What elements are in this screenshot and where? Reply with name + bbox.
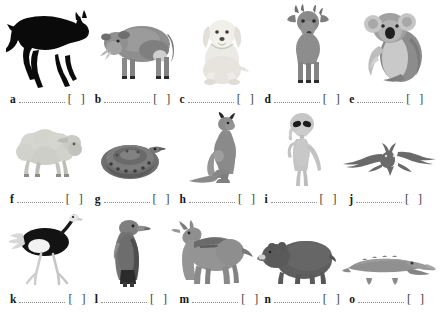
animal-illustration-row [0, 110, 444, 188]
bracket-close: ] [166, 92, 172, 107]
worksheet-row: k [ ] l [ ] m [ ] n [ ] [0, 210, 444, 310]
answer-input-line[interactable] [271, 194, 317, 203]
animal-illustration-cow [92, 2, 178, 88]
answer-letter: i [264, 193, 269, 205]
answer-item: l [ ] [95, 292, 180, 307]
answer-input-line[interactable] [274, 294, 320, 303]
horse-icon [6, 10, 92, 88]
bracket-close: ] [333, 192, 339, 207]
animal-illustration-wolf [170, 210, 256, 288]
answer-input-line[interactable] [192, 294, 238, 303]
answer-line-row: f [ ] g [ ] h [ ] i [ ] [0, 188, 444, 210]
bracket-open: [ [320, 192, 333, 207]
answer-letter: d [264, 93, 272, 105]
answer-letter: e [349, 93, 356, 105]
answer-input-line[interactable] [357, 94, 403, 103]
answer-item: i [ ] [264, 192, 349, 207]
answer-item: m [ ] [180, 292, 265, 307]
answer-input-line[interactable] [189, 194, 235, 203]
bracket-open: [ [150, 292, 163, 307]
bracket-open: [ [405, 192, 418, 207]
deer-icon [273, 4, 343, 88]
answer-line-row: a [ ] b [ ] c [ ] d [ ] [0, 88, 444, 110]
bracket-close: ] [163, 292, 169, 307]
bracket-open: [ [153, 192, 166, 207]
crocodile-icon [342, 244, 438, 288]
answer-input-line[interactable] [358, 294, 404, 303]
bracket-close: ] [420, 292, 426, 307]
answer-line-row: k [ ] l [ ] m [ ] n [ ] [0, 288, 444, 310]
koala-icon [357, 4, 433, 88]
animal-illustration-row [0, 2, 444, 88]
answer-letter: a [10, 93, 18, 105]
bracket-open: [ [407, 292, 420, 307]
answer-letter: b [95, 93, 103, 105]
animal-illustration-koala [352, 2, 438, 88]
wolf-icon [170, 216, 256, 288]
answer-letter: f [10, 193, 16, 205]
answer-letter: j [349, 193, 355, 205]
ostrich-icon [9, 212, 85, 288]
animal-illustration-deer [265, 2, 351, 88]
answer-letter: l [95, 293, 100, 305]
answer-item: e [ ] [349, 92, 434, 107]
animal-illustration-dog [179, 2, 265, 88]
bracket-close: ] [250, 92, 256, 107]
dog-icon [187, 8, 257, 88]
animal-illustration-crocodile [342, 210, 438, 288]
answer-letter: h [180, 193, 188, 205]
answer-input-line[interactable] [274, 94, 320, 103]
answer-input-line[interactable] [104, 94, 150, 103]
bracket-open: [ [68, 92, 81, 107]
bracket-open: [ [153, 92, 166, 107]
answer-item: g [ ] [95, 192, 180, 207]
worksheet-row: f [ ] g [ ] h [ ] i [ ] [0, 110, 444, 210]
animal-illustration-bat [342, 110, 438, 188]
answer-input-line[interactable] [104, 194, 150, 203]
animal-illustration-ostrich [6, 210, 88, 288]
animal-illustration-bear [256, 210, 342, 288]
bracket-open: [ [323, 92, 336, 107]
answer-input-line[interactable] [101, 294, 147, 303]
answer-letter: k [10, 293, 18, 305]
answer-input-line[interactable] [356, 194, 402, 203]
bracket-close: ] [336, 292, 342, 307]
animal-illustration-sheep [6, 110, 90, 188]
answer-item: h [ ] [180, 192, 265, 207]
worksheet-row: a [ ] b [ ] c [ ] d [ ] [0, 2, 444, 110]
bracket-close: ] [79, 192, 85, 207]
alien-icon [272, 110, 328, 188]
bracket-close: ] [81, 92, 87, 107]
kangaroo-icon [183, 112, 249, 188]
worksheet-page: a [ ] b [ ] c [ ] d [ ] [0, 0, 444, 317]
bracket-close: ] [81, 292, 87, 307]
bracket-close: ] [251, 192, 257, 207]
animal-illustration-eagle [88, 210, 170, 288]
bracket-open: [ [237, 92, 250, 107]
animal-illustration-kangaroo [174, 110, 258, 188]
answer-input-line[interactable] [19, 294, 65, 303]
bracket-open: [ [68, 292, 81, 307]
animal-illustration-row [0, 210, 444, 288]
bracket-close: ] [418, 192, 424, 207]
bracket-close: ] [166, 192, 172, 207]
bracket-open: [ [66, 192, 79, 207]
answer-item: k [ ] [10, 292, 95, 307]
bat-icon [342, 136, 438, 188]
sheep-icon [9, 116, 87, 188]
answer-input-line[interactable] [17, 194, 63, 203]
answer-item: b [ ] [95, 92, 180, 107]
snake-icon [97, 124, 167, 188]
bracket-open: [ [241, 292, 254, 307]
bracket-close: ] [254, 292, 260, 307]
answer-input-line[interactable] [188, 94, 234, 103]
answer-item: n [ ] [264, 292, 349, 307]
answer-item: f [ ] [10, 192, 95, 207]
bracket-open: [ [238, 192, 251, 207]
answer-input-line[interactable] [19, 94, 65, 103]
bracket-open: [ [406, 92, 419, 107]
eagle-icon [103, 212, 155, 288]
animal-illustration-snake [90, 110, 174, 188]
answer-item: c [ ] [180, 92, 265, 107]
animal-illustration-horse [6, 2, 92, 88]
